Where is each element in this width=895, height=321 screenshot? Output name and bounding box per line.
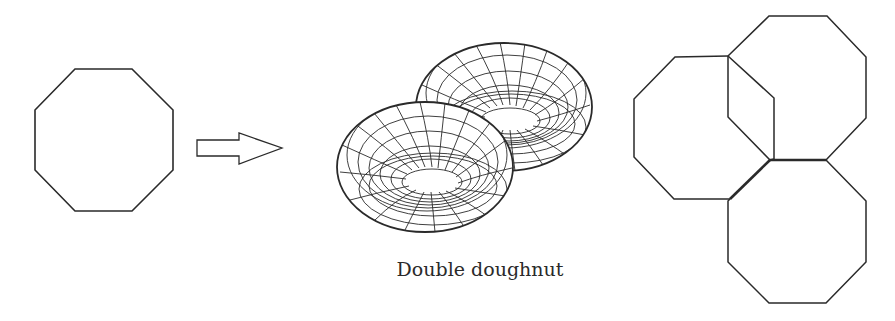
figure-caption: Double doughnut	[385, 258, 575, 280]
double-doughnut	[330, 38, 592, 240]
shared-edge-diagonal	[730, 160, 770, 199]
arrow-icon	[197, 133, 282, 164]
octagon-gluing	[634, 16, 866, 303]
octagon-left	[634, 56, 730, 199]
octagon-shape	[35, 69, 173, 211]
